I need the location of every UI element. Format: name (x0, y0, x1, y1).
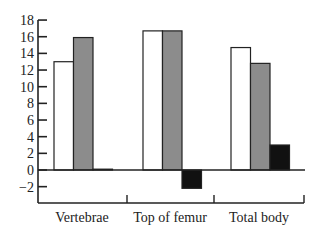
y-tick-label: 14 (20, 46, 34, 61)
y-tick-label: 0 (27, 163, 34, 178)
category-label: Top of femur (133, 210, 207, 225)
category-label: Vertebrae (55, 210, 109, 225)
bar-black-top-of-femur (182, 170, 202, 188)
category-label: Total body (229, 210, 289, 225)
y-tick-label: 18 (20, 13, 34, 28)
bar-white-vertebrae (54, 62, 74, 170)
y-tick-label: 6 (27, 113, 34, 128)
bar-gray-vertebrae (74, 38, 94, 170)
bar-white-top-of-femur (143, 31, 163, 170)
y-tick-label: 2 (27, 146, 34, 161)
bar-chart: 181614121086420−2VertebraeTop of femurTo… (0, 0, 317, 233)
y-tick-label: 8 (27, 96, 34, 111)
y-tick-label: 4 (27, 130, 34, 145)
y-tick-label: 12 (20, 63, 34, 78)
bar-gray-top-of-femur (163, 31, 183, 170)
y-tick-label: 10 (20, 80, 34, 95)
bar-white-total-body (231, 48, 251, 170)
bar-black-total-body (270, 145, 290, 170)
y-tick-label: −2 (19, 180, 34, 195)
y-tick-label: 16 (20, 30, 34, 45)
bar-gray-total-body (251, 63, 271, 170)
